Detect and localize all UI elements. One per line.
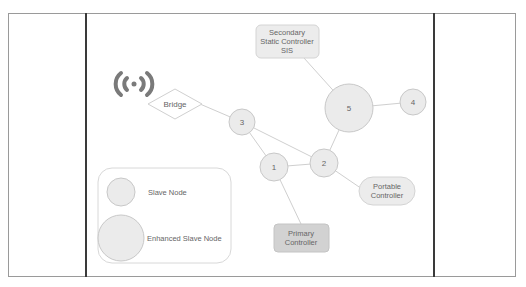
node-4-label: 4 [411,98,416,107]
node-2-label: 2 [322,159,327,168]
secondary-label-3: SIS [281,46,293,55]
node-3-label: 3 [240,118,245,127]
node-1[interactable]: 1 [260,153,288,181]
legend-enhanced-label: Enhanced Slave Node [147,234,222,243]
primary-controller-node[interactable]: Primary Controller [274,224,329,252]
node-3[interactable]: 3 [229,109,255,135]
legend-slave-swatch [107,178,135,206]
primary-label-2: Controller [285,238,318,247]
portable-label-2: Controller [371,191,404,200]
bridge-label: Bridge [163,100,187,109]
network-diagram: Bridge Secondary Static Controller SIS P… [0,0,526,287]
node-5[interactable]: 5 [325,84,373,132]
legend: Slave Node Enhanced Slave Node [98,168,231,263]
node-1-label: 1 [272,163,277,172]
node-2[interactable]: 2 [310,149,338,177]
wireless-broadcast-icon [116,73,153,95]
secondary-label-2: Static Controller [260,37,314,46]
legend-enhanced-swatch [98,215,144,261]
portable-controller-node[interactable]: Portable Controller [359,177,415,205]
legend-slave-label: Slave Node [148,188,187,197]
node-5-label: 5 [347,104,352,113]
primary-label-1: Primary [288,229,314,238]
node-4[interactable]: 4 [400,89,426,115]
bridge-node[interactable]: Bridge [148,89,202,119]
portable-label-1: Portable [373,182,401,191]
secondary-controller-node[interactable]: Secondary Static Controller SIS [256,25,319,58]
secondary-label-1: Secondary [269,28,305,37]
